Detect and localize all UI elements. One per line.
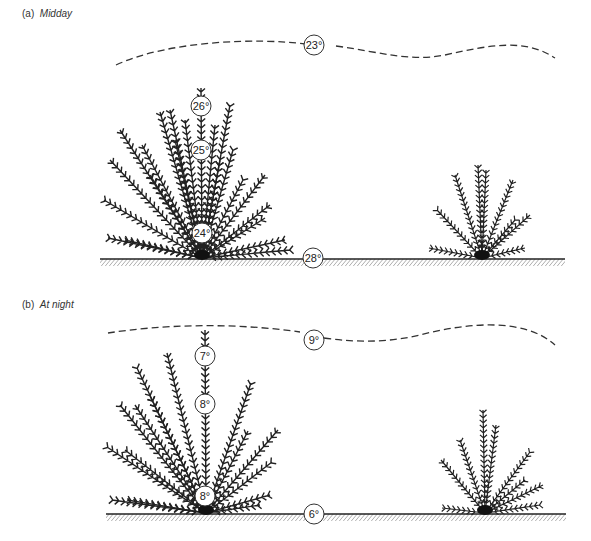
panel-a: 23° 26° 25° 24° 28° [100, 35, 565, 268]
panel-b: 9° 7° 8° 8° 6° [103, 325, 566, 524]
air-temp-reading: 23° [304, 35, 324, 55]
ground-surface [100, 259, 565, 266]
plant-base-temp-reading: 24° [192, 223, 212, 243]
small-plant [429, 165, 531, 260]
ground-temp-reading: 28° [303, 248, 323, 268]
svg-text:25°: 25° [193, 144, 210, 156]
air-temperature-line [108, 325, 555, 345]
svg-text:24°: 24° [194, 227, 211, 239]
plant-top-temp-reading: 26° [191, 96, 211, 116]
svg-text:8°: 8° [200, 398, 211, 410]
plant-mid-temp-reading: 8° [195, 394, 215, 414]
svg-text:23°: 23° [306, 39, 323, 51]
air-temp-reading: 9° [304, 330, 324, 350]
svg-text:8°: 8° [200, 490, 211, 502]
small-plant [439, 410, 544, 515]
svg-text:26°: 26° [193, 100, 210, 112]
svg-text:6°: 6° [309, 508, 320, 520]
plant-mid-temp-reading: 25° [191, 140, 211, 160]
air-temperature-line [116, 41, 555, 65]
plant-top-temp-reading: 7° [195, 346, 215, 366]
svg-text:9°: 9° [309, 334, 320, 346]
ground-surface [106, 514, 566, 521]
svg-text:7°: 7° [200, 350, 211, 362]
plant-base-temp-reading: 8° [195, 486, 215, 506]
svg-text:28°: 28° [305, 252, 322, 264]
large-plant [103, 330, 281, 515]
ground-temp-reading: 6° [304, 504, 324, 524]
diagram-canvas: 23° 26° 25° 24° 28° 9° [0, 0, 591, 541]
